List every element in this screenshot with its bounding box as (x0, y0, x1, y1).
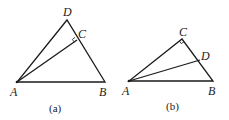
caption-a: (a) (49, 102, 62, 115)
diagram-canvas: D C A B (a) C D A B (b) (0, 0, 229, 120)
label-d: D (62, 5, 72, 19)
point-a (16, 81, 19, 84)
label-d: D (200, 49, 210, 63)
label-c: C (179, 25, 188, 39)
label-a: A (121, 84, 130, 98)
point-a (128, 80, 131, 83)
figure-b: C D A B (b) (121, 25, 216, 113)
figure-a: D C A B (a) (9, 5, 107, 115)
label-b: B (99, 85, 107, 99)
caption-b: (b) (166, 100, 179, 113)
label-c: C (78, 27, 87, 41)
segment-ac (17, 40, 77, 82)
segment-ad (129, 60, 200, 81)
label-a: A (9, 85, 18, 99)
label-b: B (208, 84, 216, 98)
